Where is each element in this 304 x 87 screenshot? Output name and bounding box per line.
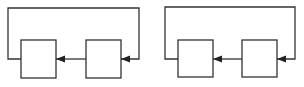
block-left [21, 40, 56, 78]
block-right [242, 40, 277, 77]
diagram-loop-1 [8, 8, 139, 78]
feedback-path [8, 8, 139, 59]
diagram-loop-2 [165, 7, 295, 77]
feedback-path [165, 7, 295, 59]
block-left [178, 40, 213, 77]
feedback-loop-diagrams [0, 0, 304, 87]
block-right [86, 40, 121, 78]
